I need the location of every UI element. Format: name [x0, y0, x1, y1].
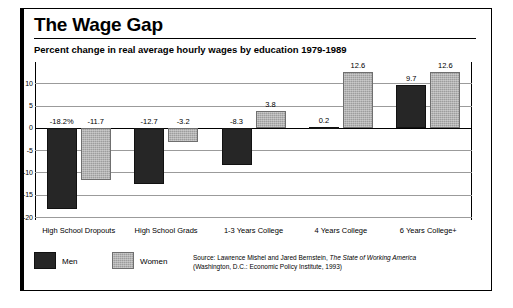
y-axis-tick-label: 10 — [9, 80, 33, 87]
source-note: Source: Lawrence Mishel and Jared Bernst… — [193, 253, 416, 271]
bar-value-label: 0.2 — [303, 117, 345, 125]
x-axis-category-label: High School Dropouts — [29, 226, 128, 235]
bar-value-label: -11.7 — [75, 118, 117, 126]
title-divider — [34, 38, 476, 39]
bar-men — [134, 128, 164, 185]
source-book-title: The State of Working America — [330, 254, 416, 261]
bar-women — [343, 72, 373, 128]
legend-label-women: Women — [140, 257, 167, 266]
gridline — [35, 217, 472, 218]
legend-label-men: Men — [62, 257, 78, 266]
gridline — [35, 195, 472, 196]
source-prefix: Source: Lawrence Mishel and Jared Bernst… — [193, 254, 330, 261]
y-axis-tick-label: -10 — [9, 169, 33, 176]
source-publisher: (Washington, D.C.: Economic Policy Insti… — [193, 262, 416, 271]
bar-men — [309, 127, 339, 129]
y-axis-ticks: 1050-5-10-15-20 — [5, 70, 33, 217]
plot-area: -18.2%-11.7-12.7-3.2-8.33.80.212.69.712.… — [35, 70, 472, 217]
y-axis-tick-label: 0 — [9, 124, 33, 131]
bar-women — [430, 72, 460, 128]
bar-value-label: -8.3 — [216, 118, 258, 126]
page-title: The Wage Gap — [34, 14, 163, 36]
bar-value-label: 3.8 — [250, 101, 292, 109]
x-axis-category-label: 4 Years College — [291, 226, 390, 235]
legend-swatch-men — [34, 252, 56, 269]
bar-women — [256, 111, 286, 128]
bar-value-label: 12.6 — [337, 62, 379, 70]
bar-value-label: -3.2 — [162, 118, 204, 126]
y-axis-tick-label: 5 — [9, 102, 33, 109]
x-axis-category-label: 6 Years College+ — [379, 226, 478, 235]
wage-gap-figure: The Wage Gap Percent change in real aver… — [0, 0, 513, 308]
y-axis-tick-label: -5 — [9, 147, 33, 154]
bar-value-label: 12.6 — [424, 62, 466, 70]
x-axis-category-label: High School Grads — [116, 226, 215, 235]
y-axis-tick-label: -15 — [9, 191, 33, 198]
bar-men — [47, 128, 77, 209]
legend-swatch-women — [112, 252, 134, 269]
bar-women — [168, 128, 198, 142]
bar-men — [222, 128, 252, 165]
bar-men — [396, 85, 426, 128]
bar-value-label: 9.7 — [390, 75, 432, 83]
chart-subtitle: Percent change in real average hourly wa… — [34, 44, 347, 55]
y-axis-tick-label: -20 — [9, 214, 33, 221]
bar-women — [81, 128, 111, 180]
x-axis-category-label: 1-3 Years College — [204, 226, 303, 235]
